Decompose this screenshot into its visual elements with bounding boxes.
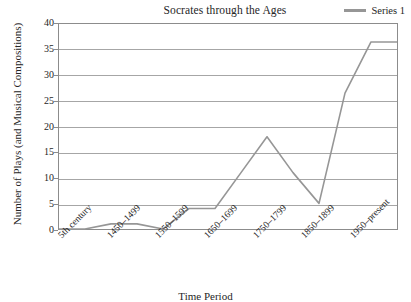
y-axis-title: Number of Plays (and Musical Composition… xyxy=(10,19,25,229)
chart-legend: Series 1 xyxy=(344,5,405,16)
y-axis-tick-label: 5 xyxy=(32,198,54,209)
y-axis-tick-label: 25 xyxy=(32,95,54,106)
plot-area xyxy=(58,23,398,230)
y-axis-title-wrap: Number of Plays (and Musical Composition… xyxy=(0,18,35,230)
chart-title: Socrates through the Ages xyxy=(120,4,330,16)
y-axis-tick-label: 40 xyxy=(32,17,54,28)
y-axis-tick-label: 15 xyxy=(32,146,54,157)
y-axis-tick-label: 0 xyxy=(32,224,54,235)
y-axis-tick-label: 20 xyxy=(32,121,54,132)
y-axis-tick-label: 30 xyxy=(32,69,54,80)
x-axis-title: Time Period xyxy=(0,290,411,302)
y-axis-tick-label: 35 xyxy=(32,43,54,54)
legend-line-swatch xyxy=(344,9,366,11)
series-1-line xyxy=(59,24,397,229)
legend-item-series-1: Series 1 xyxy=(371,5,405,16)
y-axis-tick-label: 10 xyxy=(32,172,54,183)
